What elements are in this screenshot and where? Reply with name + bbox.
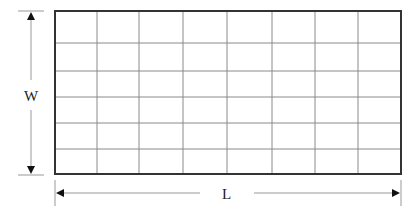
arrow-left-icon [56,189,64,197]
length-label: L [222,186,231,202]
arrow-down-icon [27,166,35,174]
grid-lines [55,11,401,174]
outer-rectangle [55,11,401,174]
length-dimension: L [55,180,401,206]
arrow-right-icon [392,189,400,197]
width-label: W [24,88,39,104]
arrow-up-icon [27,12,35,20]
dimension-diagram: W L [0,0,418,218]
width-dimension: W [18,11,44,175]
